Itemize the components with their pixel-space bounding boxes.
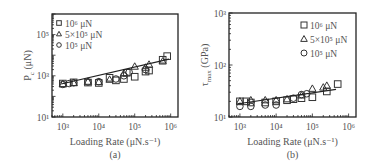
x-axis-label: Loading Rate (μN.s⁻¹): [247, 136, 338, 148]
chart-panel-a: 10³10⁴10⁵10⁶10¹10³10⁵Loading Rate (μN.s⁻…: [0, 0, 188, 166]
square-marker: [334, 81, 341, 88]
legend-label: 5×10⁵ μN: [310, 35, 347, 45]
y-tick-label: 10³: [214, 9, 227, 19]
legend-label: 10⁵ μN: [65, 41, 92, 51]
data-points: [236, 81, 341, 110]
x-tick-label: 10⁶: [342, 122, 355, 132]
triangle-marker: [309, 85, 316, 91]
x-tick-label: 10⁵: [128, 122, 141, 132]
legend-triangle-icon: [301, 36, 308, 42]
legend: 10⁶ μN5×10⁵ μN10⁵ μN: [56, 19, 102, 51]
x-tick-label: 10⁴: [92, 122, 106, 132]
x-tick-label: 10⁴: [270, 122, 284, 132]
data-points: [59, 53, 170, 88]
x-axis-label: Loading Rate (μN.s⁻¹): [70, 136, 161, 148]
y-tick-label: 10⁵: [36, 30, 49, 40]
y-tick-label: 10¹: [214, 113, 227, 123]
legend-square-icon: [57, 21, 62, 26]
chart-a-svg: 10³10⁴10⁵10⁶10¹10³10⁵Loading Rate (μN.s⁻…: [0, 0, 188, 166]
y-tick-label: 10¹: [37, 113, 50, 123]
panel-label: (b): [287, 149, 299, 161]
legend-label: 10⁶ μN: [65, 19, 92, 29]
chart-panel-b: 10³10⁴10⁵10⁶10¹10²10³Loading Rate (μN.s⁻…: [188, 0, 376, 166]
legend-triangle-icon: [56, 31, 61, 35]
legend: 10⁶ μN5×10⁵ μN10⁵ μN: [301, 21, 348, 59]
x-tick-label: 10³: [234, 122, 247, 132]
circle-marker: [248, 103, 255, 110]
x-tick-label: 10⁵: [306, 122, 319, 132]
legend-circle-icon: [57, 43, 62, 48]
y-tick-label: 10³: [37, 71, 50, 81]
chart-b-svg: 10³10⁴10⁵10⁶10¹10²10³Loading Rate (μN.s⁻…: [188, 0, 376, 166]
fit-line: [61, 59, 169, 84]
panel-label: (a): [109, 149, 120, 161]
legend-square-icon: [301, 22, 307, 28]
square-marker: [131, 73, 138, 80]
legend-circle-icon: [301, 50, 307, 56]
y-axis-label: τmax (GPa): [199, 44, 213, 86]
y-axis-label: Pc (μN): [22, 50, 36, 80]
legend-label: 10⁵ μN: [310, 49, 337, 59]
legend-label: 5×10⁵ μN: [65, 30, 102, 40]
y-tick-label: 10²: [214, 61, 227, 71]
legend-label: 10⁶ μN: [310, 21, 337, 31]
x-tick-label: 10⁶: [164, 122, 177, 132]
x-tick-label: 10³: [57, 122, 70, 132]
